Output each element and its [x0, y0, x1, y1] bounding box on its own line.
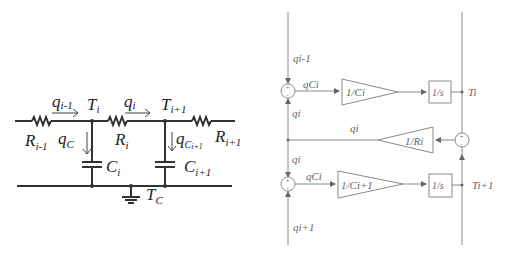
resistor-r-next — [192, 117, 211, 125]
top-wire — [15, 117, 235, 125]
svg-text:1/s: 1/s — [432, 87, 444, 98]
svg-text:+: + — [286, 85, 290, 91]
svg-text:-: - — [461, 141, 463, 147]
signal-label-qi-lower: qi — [292, 153, 301, 165]
output-label-ti-plus-1: Ti+1 — [472, 179, 494, 191]
resistor-r-i — [108, 117, 127, 125]
integrator-block-top[interactable]: 1/s — [429, 81, 451, 103]
block-diagram: + - 1/Ci 1/s + - 1/Ri — [281, 12, 494, 245]
label-c-i: Ci — [106, 157, 120, 178]
svg-text:-: - — [287, 92, 289, 98]
svg-text:+: + — [286, 178, 290, 184]
svg-text:1/Ci+1: 1/Ci+1 — [341, 179, 373, 191]
label-q-prev: qi-1 — [52, 92, 73, 111]
signal-label-qi-top: qi — [292, 107, 301, 119]
arrow-qc-next-icon — [168, 132, 176, 151]
signal-label-q-next: qi+1 — [293, 221, 314, 233]
signal-label-qi-mid: qi — [350, 122, 359, 134]
label-t-c: TC — [146, 185, 163, 206]
svg-text:+: + — [460, 134, 464, 140]
sum-block-bottom[interactable]: + - — [281, 177, 295, 191]
integrator-block-bottom[interactable]: 1/s — [429, 174, 452, 197]
sum-block-top[interactable]: + - — [281, 84, 295, 98]
node-dot — [90, 184, 94, 188]
arrow-qc-i-icon — [83, 132, 91, 154]
svg-text:1/s: 1/s — [432, 180, 444, 191]
label-q-i: qi — [124, 92, 136, 111]
node-dot — [163, 119, 167, 123]
label-qc-i: qC — [58, 129, 75, 150]
rc-circuit: qi-1 Ti qi Ti+1 Ri-1 qC Ri qCi+1 Ri+1 Ci… — [15, 92, 241, 206]
label-qc-next: qCi+1 — [176, 129, 203, 151]
output-label-ti: Ti — [468, 86, 477, 98]
label-t-next: Ti+1 — [161, 95, 186, 115]
label-r-prev: Ri-1 — [24, 131, 48, 152]
label-r-i: Ri — [114, 130, 128, 151]
signal-label-q-prev: qi-1 — [293, 52, 311, 64]
sum-block-right[interactable]: + - — [455, 133, 469, 147]
gain-block-1-over-ci-plus-1[interactable]: 1/Ci+1 — [338, 171, 403, 198]
node-dot — [90, 119, 94, 123]
signal-label-qc-top: qCi — [303, 78, 319, 90]
label-c-next: Ci+1 — [184, 157, 211, 178]
label-r-next: Ri+1 — [214, 127, 241, 148]
node-dot — [163, 184, 167, 188]
svg-text:-: - — [287, 185, 289, 191]
gain-block-1-over-ri[interactable]: 1/Ri — [378, 127, 433, 153]
svg-text:1/Ci: 1/Ci — [346, 86, 365, 98]
resistor-r-prev — [32, 117, 51, 125]
gain-block-1-over-ci[interactable]: 1/Ci — [342, 79, 398, 105]
svg-text:1/Ri: 1/Ri — [405, 135, 423, 147]
label-t-i: Ti — [87, 95, 100, 115]
signal-label-qc-bottom: qCi — [306, 170, 322, 182]
